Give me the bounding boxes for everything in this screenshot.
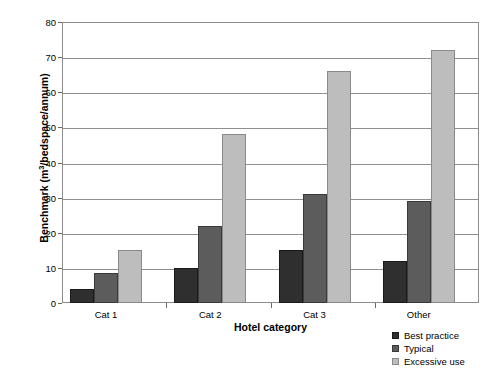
- x-category-label-cat-2: Cat 2: [199, 309, 222, 320]
- bar-other-best-practice: [383, 261, 407, 303]
- x-tick-mark-1: [166, 303, 167, 308]
- bar-cat-3-best-practice: [279, 250, 303, 303]
- bar-layer: [62, 22, 479, 303]
- y-tick-label-0: 0: [30, 298, 56, 309]
- legend-label: Best practice: [404, 330, 459, 341]
- legend-swatch-icon-excessive-use: [392, 358, 399, 365]
- legend-swatch-icon-typical: [392, 345, 399, 352]
- legend-item-excessive-use: Excessive use: [392, 355, 465, 368]
- x-category-label-other: Other: [407, 309, 431, 320]
- legend-label: Typical: [404, 343, 434, 354]
- bar-cat-2-best-practice: [174, 268, 198, 303]
- chart-legend: Best practiceTypicalExcessive use: [392, 329, 465, 368]
- y-tick-label-60: 60: [30, 87, 56, 98]
- bar-cat-3-excessive-use: [327, 71, 351, 303]
- x-category-label-cat-1: Cat 1: [95, 309, 118, 320]
- x-tick-mark-2: [271, 303, 272, 308]
- legend-label: Excessive use: [404, 356, 465, 367]
- x-category-label-cat-3: Cat 3: [303, 309, 326, 320]
- bar-cat-2-excessive-use: [222, 134, 246, 303]
- bar-other-typical: [407, 201, 431, 303]
- y-tick-mark-0: [58, 303, 62, 304]
- legend-swatch-icon-best-practice: [392, 332, 399, 339]
- y-tick-label-40: 40: [30, 157, 56, 168]
- x-tick-mark-3: [375, 303, 376, 308]
- bar-other-excessive-use: [431, 50, 455, 303]
- bar-cat-1-excessive-use: [118, 250, 142, 303]
- legend-item-typical: Typical: [392, 342, 465, 355]
- bar-cat-2-typical: [198, 226, 222, 303]
- bar-chart: Benchmark (m3/bedspace/annum) 0102030405…: [0, 0, 500, 374]
- legend-item-best-practice: Best practice: [392, 329, 465, 342]
- y-tick-label-70: 70: [30, 52, 56, 63]
- y-tick-label-50: 50: [30, 122, 56, 133]
- bar-cat-1-best-practice: [70, 289, 94, 303]
- y-tick-label-10: 10: [30, 262, 56, 273]
- y-tick-label-30: 30: [30, 192, 56, 203]
- y-tick-label-80: 80: [30, 17, 56, 28]
- bar-cat-3-typical: [303, 194, 327, 303]
- bar-cat-1-typical: [94, 273, 118, 303]
- y-tick-label-20: 20: [30, 227, 56, 238]
